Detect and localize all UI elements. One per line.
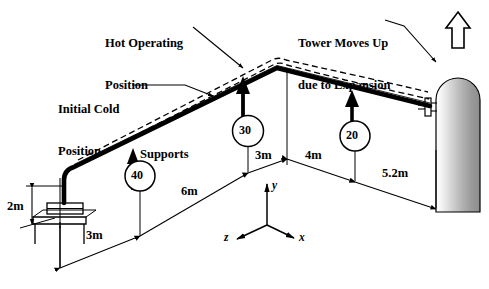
piping-expansion-diagram: Hot Operating Position Initial Cold Posi… (0, 0, 489, 289)
initial-cold-position-label: Initial Cold Position (58, 74, 119, 186)
tower-moves-up-label: Tower Moves Up due to Expansion (298, 8, 390, 120)
initial-cold-line2: Position (58, 144, 119, 158)
dimension-5.2m-label: 5.2m (382, 166, 408, 180)
dimension-4m-label: 4m (305, 148, 322, 162)
coordinate-axes-triad (237, 184, 294, 239)
dimension-4m (287, 159, 355, 182)
supports-label: Supports (140, 147, 189, 161)
leader-hot-operating (193, 27, 243, 68)
dimension-2m-label: 2m (7, 199, 24, 213)
support-node-30-value: 30 (239, 124, 251, 137)
axis-label-z: z (224, 231, 228, 244)
leader-tower-moves-up (385, 20, 436, 62)
tower-up-arrow-icon (446, 12, 470, 48)
tower-vessel (436, 78, 480, 212)
support-node-40-value: 40 (131, 169, 143, 182)
dimension-6m-label: 6m (181, 184, 198, 198)
hot-operating-line1: Hot Operating (105, 36, 183, 50)
dimension-3m-base-label: 3m (86, 228, 103, 242)
support-node-20-value: 20 (346, 129, 358, 142)
tower-body (436, 78, 480, 212)
dimension-5.2m (355, 182, 436, 209)
initial-cold-line1: Initial Cold (58, 102, 119, 116)
dimension-6m (140, 173, 248, 236)
axis-z-arrow (237, 225, 267, 239)
axis-label-x: x (299, 231, 305, 244)
tower-moves-line1: Tower Moves Up (298, 36, 390, 50)
tower-moves-line2: due to Expansion (298, 78, 390, 92)
axis-label-y: y (272, 179, 277, 192)
dimension-3m-peak-label: 3m (255, 148, 272, 162)
axis-x-arrow (267, 225, 294, 238)
